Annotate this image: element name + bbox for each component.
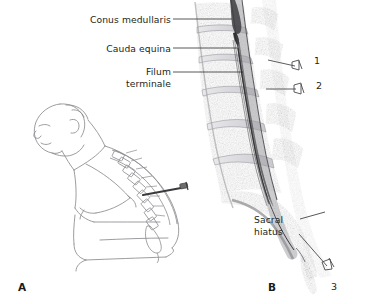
hair-line bbox=[66, 105, 88, 119]
label-sacral-hiatus-line1: Sacral bbox=[254, 214, 283, 226]
ear bbox=[70, 119, 79, 133]
coccyx-a bbox=[157, 253, 159, 263]
chin-jaw bbox=[52, 145, 84, 156]
mouth bbox=[41, 143, 51, 145]
leg-lower bbox=[86, 257, 166, 260]
marker-number-1: 1 bbox=[314, 55, 320, 66]
arm-fore bbox=[96, 198, 130, 213]
neck-front bbox=[62, 151, 74, 170]
thigh-crease bbox=[100, 238, 168, 240]
marker-number-3: 3 bbox=[331, 281, 337, 292]
neck-back bbox=[88, 120, 105, 146]
panel-label-a: A bbox=[18, 281, 26, 293]
buttock bbox=[172, 223, 179, 248]
label-sacral-hiatus-line2: hiatus bbox=[254, 226, 283, 238]
label-cauda-equina: Cauda equina bbox=[0, 43, 171, 55]
knee bbox=[76, 260, 86, 271]
thigh-front bbox=[74, 244, 86, 260]
panel-a-illustration bbox=[34, 104, 179, 271]
sacrum-a bbox=[146, 226, 162, 253]
marker-number-2: 2 bbox=[316, 80, 322, 91]
belly bbox=[74, 215, 75, 244]
face-brow bbox=[39, 125, 50, 127]
panel-label-b: B bbox=[268, 281, 276, 293]
vertebrae bbox=[112, 150, 159, 230]
label-filum-terminale-line2: terminale bbox=[0, 78, 171, 90]
back-contour bbox=[105, 146, 178, 223]
seat-line bbox=[166, 248, 174, 257]
head-outline bbox=[34, 104, 62, 153]
chest-front bbox=[74, 170, 76, 208]
label-filum-terminale-line1: Filum bbox=[0, 66, 171, 78]
panel-b-sagittal bbox=[195, 0, 332, 294]
panel-a-spine bbox=[110, 150, 177, 263]
abdomen-fold bbox=[75, 208, 94, 222]
hair-swirl bbox=[72, 110, 84, 117]
shoulder bbox=[74, 146, 105, 170]
label-conus-medullaris: Conus medullaris bbox=[0, 14, 171, 26]
